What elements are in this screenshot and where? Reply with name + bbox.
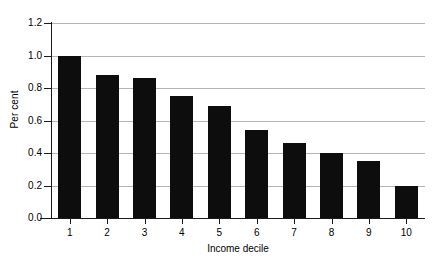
x-tick-mark bbox=[406, 219, 407, 224]
x-axis-title: Income decile bbox=[51, 243, 425, 254]
y-tick-mark bbox=[44, 121, 51, 122]
y-tick-label: 0.0 bbox=[12, 213, 42, 223]
bar bbox=[208, 106, 231, 218]
x-tick-mark bbox=[332, 219, 333, 224]
bar bbox=[96, 75, 119, 218]
x-tick-label: 8 bbox=[319, 227, 345, 238]
x-tick-label: 9 bbox=[356, 227, 382, 238]
y-tick-mark bbox=[44, 56, 51, 57]
x-tick-label: 7 bbox=[281, 227, 307, 238]
x-tick-label: 10 bbox=[393, 227, 419, 238]
x-tick-mark bbox=[257, 219, 258, 224]
x-tick-label: 4 bbox=[169, 227, 195, 238]
x-tick-mark bbox=[70, 219, 71, 224]
x-tick-mark bbox=[294, 219, 295, 224]
y-tick-label: 0.8 bbox=[12, 83, 42, 93]
bar bbox=[283, 143, 306, 218]
y-tick-label: 1.2 bbox=[12, 18, 42, 28]
x-tick-label: 6 bbox=[244, 227, 270, 238]
plot-area bbox=[51, 23, 425, 218]
x-tick-mark bbox=[219, 219, 220, 224]
y-tick-mark bbox=[44, 23, 51, 24]
bar bbox=[170, 96, 193, 218]
x-axis-line bbox=[40, 218, 425, 219]
x-tick-label: 2 bbox=[94, 227, 120, 238]
bar bbox=[133, 78, 156, 218]
y-tick-mark bbox=[44, 88, 51, 89]
bar bbox=[320, 153, 343, 218]
y-tick-label: 1.0 bbox=[12, 51, 42, 61]
bar bbox=[245, 130, 268, 218]
x-tick-label: 1 bbox=[57, 227, 83, 238]
bar bbox=[395, 186, 418, 219]
bar bbox=[58, 56, 81, 219]
x-tick-mark bbox=[145, 219, 146, 224]
gridline bbox=[51, 56, 425, 57]
y-tick-mark bbox=[44, 186, 51, 187]
y-tick-label: 0.6 bbox=[12, 116, 42, 126]
x-tick-mark bbox=[182, 219, 183, 224]
y-tick-label: 0.4 bbox=[12, 148, 42, 158]
y-axis-line bbox=[51, 22, 52, 219]
x-tick-label: 5 bbox=[206, 227, 232, 238]
y-tick-label: 0.2 bbox=[12, 181, 42, 191]
bar-chart-figure: Per cent 0.00.20.40.60.81.01.2 123456789… bbox=[0, 0, 434, 269]
y-tick-mark bbox=[44, 153, 51, 154]
x-tick-label: 3 bbox=[132, 227, 158, 238]
gridline bbox=[51, 23, 425, 24]
bar bbox=[357, 161, 380, 218]
x-tick-mark bbox=[107, 219, 108, 224]
x-tick-mark bbox=[369, 219, 370, 224]
